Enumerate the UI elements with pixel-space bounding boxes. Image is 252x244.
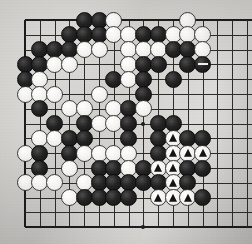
- triangle-mark-icon: [169, 134, 177, 142]
- stone-black-marked-bar[interactable]: [194, 56, 211, 73]
- star-point: [141, 122, 145, 126]
- stone-black[interactable]: [165, 71, 182, 88]
- stone-black[interactable]: [194, 160, 211, 177]
- stone-white[interactable]: [46, 174, 63, 191]
- stone-white[interactable]: [135, 100, 152, 117]
- grid-line-horizontal: [25, 212, 252, 213]
- triangle-mark-icon: [154, 164, 162, 172]
- stone-black[interactable]: [120, 189, 137, 206]
- star-point: [141, 225, 145, 229]
- grid-line-horizontal: [25, 226, 252, 228]
- stone-black[interactable]: [150, 56, 167, 73]
- grid-line-horizontal: [25, 153, 252, 154]
- stone-white[interactable]: [91, 86, 108, 103]
- triangle-mark-icon: [169, 149, 177, 157]
- go-diagram-page: [0, 0, 252, 244]
- triangle-mark-icon: [199, 149, 207, 157]
- triangle-mark-icon: [154, 193, 162, 201]
- grid-line-horizontal: [25, 19, 252, 21]
- stone-white[interactable]: [46, 86, 63, 103]
- stone-white[interactable]: [61, 160, 78, 177]
- stone-black[interactable]: [194, 189, 211, 206]
- triangle-mark-icon: [184, 193, 192, 201]
- stone-black[interactable]: [31, 100, 48, 117]
- go-board[interactable]: [0, 0, 252, 244]
- bar-mark-icon: [198, 63, 208, 65]
- stone-white[interactable]: [91, 41, 108, 58]
- triangle-mark-icon: [169, 193, 177, 201]
- triangle-mark-icon: [169, 179, 177, 187]
- grid-line-vertical: [247, 20, 248, 227]
- stone-white[interactable]: [61, 56, 78, 73]
- triangle-mark-icon: [184, 149, 192, 157]
- triangle-mark-icon: [169, 164, 177, 172]
- grid-line-horizontal: [25, 198, 252, 199]
